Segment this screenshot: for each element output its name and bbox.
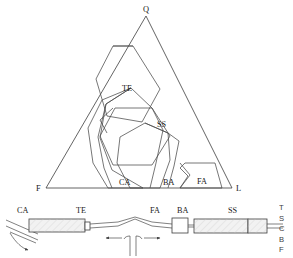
- qfl-ternary-and-cross-section: Q F L TE SS CA BA FA: [0, 0, 293, 258]
- legend-line-1: T: [279, 203, 293, 214]
- legend-line-3: C: [279, 224, 293, 235]
- field-label-ss: SS: [157, 120, 167, 129]
- apex-label-l: L: [236, 184, 241, 193]
- field-ca-polygon: [88, 88, 143, 188]
- cs-label-fa: FA: [150, 206, 160, 215]
- ternary-triangle: [46, 16, 232, 188]
- cs-rift: [90, 217, 172, 256]
- legend-line-5: F: [279, 245, 293, 256]
- apex-label-f: F: [36, 184, 41, 193]
- cs-ba-box: [172, 218, 194, 233]
- field-label-ba: BA: [163, 178, 174, 187]
- legend-line-2: S: [279, 214, 293, 225]
- triangle-outline: [46, 16, 232, 188]
- apex-label-q: Q: [143, 5, 149, 14]
- legend-column: T S C B F: [279, 203, 293, 256]
- field-label-ca: CA: [119, 178, 130, 187]
- field-ss: [100, 108, 170, 165]
- field-ca: [88, 88, 143, 188]
- cs-ss-box: [194, 219, 283, 233]
- figure-root: Q F L TE SS CA BA FA: [0, 0, 293, 258]
- cs-label-ba: BA: [177, 206, 188, 215]
- cs-label-ca: CA: [17, 206, 28, 215]
- cs-te-box: [29, 219, 90, 232]
- cs-label-te: TE: [76, 206, 86, 215]
- cross-section: CA TE FA BA SS: [6, 206, 283, 256]
- field-ca-outer: [98, 88, 163, 188]
- cs-label-ss: SS: [228, 206, 238, 215]
- legend-line-4: B: [279, 235, 293, 246]
- field-label-fa: FA: [197, 177, 207, 186]
- field-ca-outer-right: [150, 130, 163, 188]
- field-label-te: TE: [122, 84, 132, 93]
- field-ss-polygon: [100, 108, 170, 165]
